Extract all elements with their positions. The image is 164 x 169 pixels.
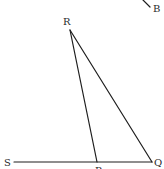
segment-rq [70,30,152,162]
label-q: Q [154,157,162,168]
label-b: B [153,3,160,14]
segment-rp [70,30,97,162]
label-p: P [95,165,102,169]
geometry-diagram: R S P Q B [0,0,164,169]
segment-b [143,0,150,7]
label-s: S [4,157,11,168]
label-r: R [63,16,71,27]
